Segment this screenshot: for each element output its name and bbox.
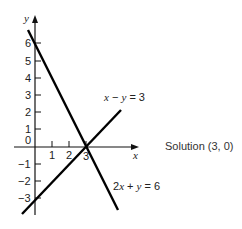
y-axis-arrow-icon [32, 15, 38, 23]
y-tick-minus-2: −2 [18, 175, 31, 187]
y-tick-4: 4 [25, 72, 31, 84]
y-tick-6: 6 [25, 37, 31, 49]
label-2x-plus-y-eq-6: 2x + y = 6 [113, 180, 160, 192]
y-tick-minus-1: −1 [18, 158, 31, 170]
x-tick-1: 1 [49, 149, 55, 161]
x-axis-label: x [132, 149, 138, 161]
x-ticks [52, 141, 86, 147]
y-tick-2: 2 [25, 106, 31, 118]
line-2x-plus-y-eq-6 [28, 30, 118, 210]
label-x-minus-y-eq-3: x − y = 3 [103, 91, 145, 103]
solution-annotation: Solution (3, 0) [165, 140, 233, 152]
y-tick-5: 5 [25, 55, 31, 67]
x-tick-2: 2 [66, 149, 72, 161]
y-tick-minus-3: −3 [18, 192, 31, 204]
graph: y x 6 5 4 3 2 1 0 −1 −2 −3 1 2 3 [0, 0, 242, 229]
y-ticks [35, 43, 41, 198]
line-x-minus-y-eq-3 [22, 110, 121, 214]
y-tick-labels: 6 5 4 3 2 1 0 −1 −2 −3 [18, 37, 31, 204]
y-axis-label: y [23, 12, 29, 24]
origin-label: 0 [25, 134, 31, 146]
y-tick-3: 3 [25, 89, 31, 101]
